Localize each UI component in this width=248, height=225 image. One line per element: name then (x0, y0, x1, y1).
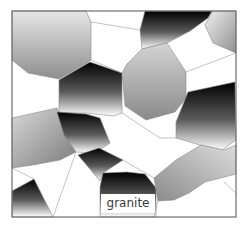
granite-texture-figure (0, 0, 248, 225)
granite-label: granite (101, 194, 155, 213)
